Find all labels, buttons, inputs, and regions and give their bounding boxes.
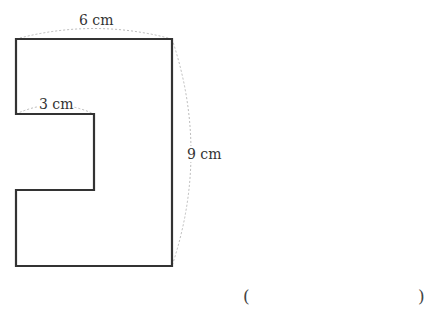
label-notch-width: 3 cm <box>38 96 74 112</box>
dimension-arc-top <box>16 29 172 40</box>
answer-open-paren: ( <box>243 286 250 306</box>
answer-close-paren: ) <box>418 286 425 306</box>
label-height: 9 cm <box>186 146 222 162</box>
label-top-width: 6 cm <box>78 12 114 28</box>
shape-outline <box>16 39 172 266</box>
